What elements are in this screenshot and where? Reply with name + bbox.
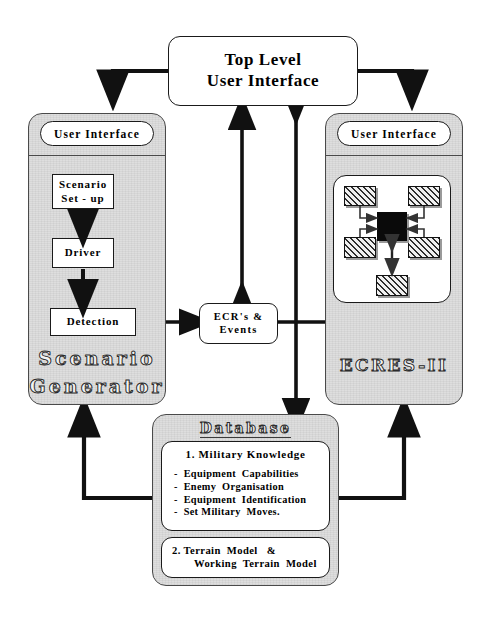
database-item-enemy-organisation: - Enemy Organisation bbox=[174, 481, 329, 494]
ecres-ii-name-label: ECRES-II bbox=[340, 355, 449, 375]
database-section2-line1: 2. Terrain Model & bbox=[172, 545, 276, 558]
scenario-panel-divider bbox=[29, 155, 165, 156]
top-level-title-line2: User Interface bbox=[207, 71, 319, 92]
ecres-box-top-right[interactable] bbox=[408, 186, 440, 206]
ecr-events-line2: Events bbox=[219, 324, 257, 337]
scenario-setup-line2: Set - up bbox=[61, 192, 104, 205]
detection-box[interactable]: Detection bbox=[50, 308, 136, 336]
detection-label: Detection bbox=[67, 315, 120, 328]
ecres-ii-name: ECRES-II bbox=[325, 355, 463, 375]
database-section-terrain-model[interactable]: 2. Terrain Model & Working Terrain Model bbox=[161, 537, 330, 578]
scenario-user-interface-label: User Interface bbox=[54, 128, 140, 140]
driver-box[interactable]: Driver bbox=[52, 238, 114, 268]
connector-top-to-right bbox=[357, 71, 412, 93]
scenario-generator-name-line1: Scenario bbox=[28, 345, 166, 373]
ecr-events-node[interactable]: ECR's & Events bbox=[199, 303, 278, 344]
database-header-label: Database bbox=[200, 420, 292, 438]
connector-top-to-left bbox=[113, 71, 168, 93]
scenario-user-interface-pill[interactable]: User Interface bbox=[40, 121, 154, 146]
diagram-canvas: Top Level User Interface User Interface … bbox=[0, 0, 490, 620]
scenario-generator-name-line2: Generator bbox=[28, 373, 166, 401]
scenario-setup-box[interactable]: Scenario Set - up bbox=[52, 174, 114, 209]
ecres-box-top-left[interactable] bbox=[344, 186, 376, 206]
database-item-equipment-identification: - Equipment Identification bbox=[174, 494, 329, 507]
driver-label: Driver bbox=[65, 246, 102, 259]
ecres-user-interface-label: User Interface bbox=[351, 128, 437, 140]
database-item-equipment-capabilities: - Equipment Capabilities bbox=[174, 468, 329, 481]
top-level-title-line1: Top Level bbox=[224, 50, 301, 71]
ecr-events-line1: ECR's & bbox=[214, 311, 264, 324]
ecres-core-node[interactable] bbox=[377, 212, 407, 241]
scenario-generator-name: Scenario Generator bbox=[28, 345, 166, 400]
top-level-user-interface-box[interactable]: Top Level User Interface bbox=[168, 36, 358, 106]
database-section-military-knowledge[interactable]: 1. Military Knowledge - Equipment Capabi… bbox=[161, 441, 330, 531]
scenario-setup-line1: Scenario bbox=[59, 178, 107, 191]
ecres-panel-divider bbox=[326, 155, 462, 156]
database-section2-line2: Working Terrain Model bbox=[172, 558, 317, 571]
ecres-box-mid-right[interactable] bbox=[408, 237, 440, 258]
connector-database-to-ecres bbox=[332, 414, 404, 498]
ecres-box-mid-left[interactable] bbox=[344, 237, 376, 258]
ecres-user-interface-pill[interactable]: User Interface bbox=[337, 121, 451, 146]
database-header: Database bbox=[152, 419, 339, 437]
database-section1-title: 1. Military Knowledge bbox=[185, 448, 305, 461]
ecres-box-bottom[interactable] bbox=[376, 275, 408, 296]
database-item-set-military-moves: - Set Military Moves. bbox=[174, 506, 329, 519]
